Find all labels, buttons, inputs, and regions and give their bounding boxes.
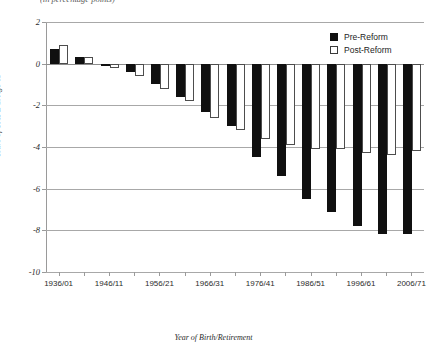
- plot-area: 20-2-4-6-8-10 1936/011946/111956/211966/…: [46, 22, 424, 272]
- x-axis-tick: [311, 272, 312, 276]
- legend-label-pre-reform: Pre-Reform: [344, 32, 388, 42]
- legend: Pre-Reform Post-Reform: [330, 30, 424, 56]
- x-axis-tick: [109, 272, 110, 276]
- bar-post-reform: [210, 64, 219, 118]
- bar-post-reform: [412, 64, 421, 152]
- bar-post-reform: [84, 57, 93, 63]
- bar-pre-reform: [201, 64, 210, 112]
- legend-swatch-post-reform-icon: [330, 46, 338, 54]
- gridline: [46, 230, 424, 231]
- x-axis-tick-label: 2006/71: [397, 279, 426, 288]
- bar-post-reform: [135, 64, 144, 77]
- bar-pre-reform: [403, 64, 412, 235]
- bar-pre-reform: [126, 64, 135, 72]
- legend-label-post-reform: Post-Reform: [344, 45, 392, 55]
- bar-post-reform: [110, 64, 119, 68]
- bar-pre-reform: [327, 64, 336, 212]
- bar-post-reform: [236, 64, 245, 131]
- bar-post-reform: [261, 64, 270, 139]
- bar-pre-reform: [50, 49, 59, 64]
- bar-post-reform: [387, 64, 396, 156]
- bar-pre-reform: [151, 64, 160, 85]
- x-axis-tick-label: 1946/11: [95, 279, 123, 288]
- y-axis-tick-label: -6: [33, 184, 40, 194]
- gridline: [46, 22, 424, 23]
- y-axis-tick-label: -10: [29, 267, 40, 277]
- x-axis-tick: [235, 272, 236, 276]
- bar-pre-reform: [227, 64, 236, 127]
- bar-post-reform: [311, 64, 320, 149]
- legend-item-pre-reform: Pre-Reform: [330, 30, 424, 43]
- x-axis-tick-label: 1956/21: [145, 279, 174, 288]
- x-axis-tick: [185, 272, 186, 276]
- y-axis-tick-label: -2: [33, 100, 40, 110]
- bar-post-reform: [59, 45, 68, 64]
- y-axis-tick: [42, 147, 46, 148]
- legend-swatch-pre-reform-icon: [330, 33, 338, 41]
- y-axis-title: Years of YMPE at Age 65: [0, 74, 2, 157]
- x-axis-tick: [260, 272, 261, 276]
- bar-pre-reform: [176, 64, 185, 97]
- x-axis-tick: [84, 272, 85, 276]
- bar-post-reform: [336, 64, 345, 149]
- y-axis-tick: [42, 230, 46, 231]
- y-axis-tick: [42, 189, 46, 190]
- x-axis-tick-label: 1936/01: [44, 279, 73, 288]
- x-axis-tick-label: 1976/41: [246, 279, 275, 288]
- figure-subtitle: (in percentage points): [40, 0, 280, 4]
- y-axis-tick-label: 2: [36, 17, 40, 27]
- x-axis-tick: [285, 272, 286, 276]
- x-axis-tick: [411, 272, 412, 276]
- bar-pre-reform: [378, 64, 387, 235]
- gridline: [46, 189, 424, 190]
- bar-pre-reform: [101, 64, 110, 66]
- bar-post-reform: [185, 64, 194, 102]
- x-axis-tick-label: 1966/31: [195, 279, 224, 288]
- x-axis-tick: [59, 272, 60, 276]
- legend-item-post-reform: Post-Reform: [330, 43, 424, 56]
- x-axis-tick: [361, 272, 362, 276]
- x-axis-tick: [159, 272, 160, 276]
- y-axis-tick: [42, 105, 46, 106]
- y-axis-tick-label: -4: [33, 142, 40, 152]
- x-axis-tick-label: 1986/51: [296, 279, 325, 288]
- bar-pre-reform: [302, 64, 311, 199]
- bar-post-reform: [160, 64, 169, 89]
- bar-post-reform: [362, 64, 371, 154]
- y-axis-tick: [42, 64, 46, 65]
- x-axis-tick: [386, 272, 387, 276]
- x-axis-tick-label: 1996/61: [347, 279, 376, 288]
- bar-pre-reform: [277, 64, 286, 177]
- y-axis-tick-label: -8: [33, 225, 40, 235]
- y-axis-tick: [42, 22, 46, 23]
- chart-figure: (in percentage points) 20-2-4-6-8-10 193…: [0, 0, 427, 353]
- x-axis-title: Year of Birth/Retirement: [0, 333, 427, 342]
- x-axis-tick: [336, 272, 337, 276]
- x-axis-ticks-group: 1936/011946/111956/211966/311976/411986/…: [46, 272, 424, 277]
- bar-post-reform: [286, 64, 295, 145]
- bar-pre-reform: [252, 64, 261, 158]
- bar-pre-reform: [353, 64, 362, 227]
- x-axis-tick: [134, 272, 135, 276]
- bar-pre-reform: [75, 57, 84, 63]
- y-axis-tick-label: 0: [36, 59, 40, 69]
- x-axis-tick: [210, 272, 211, 276]
